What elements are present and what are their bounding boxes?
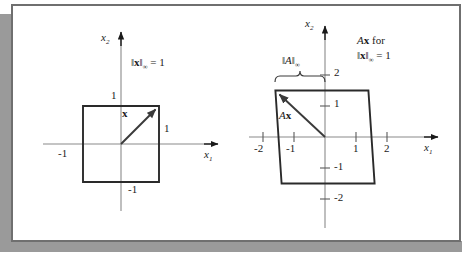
y-tick-label-negative-one: -1 bbox=[128, 184, 137, 196]
vector-Ax-label: Ax bbox=[279, 110, 291, 122]
x-axis-label-sub: 1 bbox=[209, 155, 213, 163]
y-axis-label-sub: 2 bbox=[310, 24, 314, 32]
norm-equals-one: = 1 bbox=[150, 56, 164, 68]
x-tick-label-positive-one: 1 bbox=[164, 123, 170, 135]
image-ball-panel: x2 x1 Ax for ‖x‖∞ = 1 ‖A‖∞ 2 1 -1 -2 -2 … bbox=[241, 6, 463, 244]
x-axis-label: x1 bbox=[424, 142, 432, 157]
image-ball-caption-line2: ‖x‖∞ = 1 bbox=[357, 50, 391, 63]
caption-vector-x: x bbox=[364, 34, 370, 46]
x-axis-label: x1 bbox=[204, 149, 212, 164]
x-tick-label-neg1: -1 bbox=[286, 143, 295, 155]
y-tick-label-pos1: 1 bbox=[334, 98, 340, 110]
norm-equals-one: = 1 bbox=[376, 49, 390, 61]
vector-Ax-vector-part: x bbox=[286, 109, 292, 121]
x-tick-label-neg2: -2 bbox=[254, 143, 263, 155]
norm-A-brace bbox=[275, 71, 325, 82]
y-tick-label-pos2: 2 bbox=[334, 67, 340, 79]
image-ball-caption-line1: Ax for bbox=[357, 35, 385, 47]
norm-subscript-infinity: ∞ bbox=[369, 56, 374, 63]
norm-A-subscript-infinity: ∞ bbox=[295, 61, 300, 68]
y-tick-label-positive-one: 1 bbox=[111, 90, 117, 102]
x-tick-label-pos2: 2 bbox=[384, 143, 390, 155]
y-axis-label: x2 bbox=[305, 18, 313, 33]
vector-x-label: x bbox=[122, 108, 128, 120]
norm-A-label: ‖A‖∞ bbox=[282, 55, 300, 68]
caption-for-word: for bbox=[372, 34, 385, 46]
y-tick-label-neg1: -1 bbox=[334, 161, 343, 173]
y-axis-label: x2 bbox=[101, 32, 109, 47]
figure-frame: x2 x1 ‖x‖∞ = 1 1 1 -1 -1 x bbox=[11, 4, 461, 242]
caption-matrix-A: A bbox=[357, 34, 364, 46]
vector-Ax-matrix-part: A bbox=[279, 109, 286, 121]
figure-root: x2 x1 ‖x‖∞ = 1 1 1 -1 -1 x bbox=[0, 0, 467, 256]
y-axis-label-sub: 2 bbox=[106, 38, 110, 46]
x-tick-label-negative-one: -1 bbox=[58, 148, 67, 160]
unit-ball-panel: x2 x1 ‖x‖∞ = 1 1 1 -1 -1 x bbox=[18, 6, 243, 244]
unit-ball-caption: ‖x‖∞ = 1 bbox=[131, 57, 165, 70]
x-axis-label-sub: 1 bbox=[429, 148, 433, 156]
norm-A-matrix: A bbox=[285, 54, 292, 66]
unit-ball-svg bbox=[18, 6, 243, 244]
image-ball-svg bbox=[241, 6, 463, 244]
x-tick-label-pos1: 1 bbox=[353, 143, 359, 155]
frame-shadow-left bbox=[0, 14, 11, 252]
y-tick-label-neg2: -2 bbox=[334, 192, 343, 204]
norm-subscript-infinity: ∞ bbox=[143, 63, 148, 70]
